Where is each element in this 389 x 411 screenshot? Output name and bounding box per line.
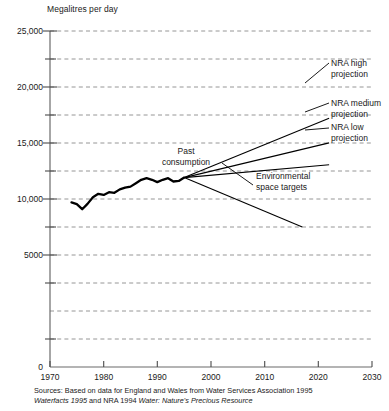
annotation-nra-high-line2: projection: [331, 69, 368, 80]
x-tick-2020: 2020: [309, 372, 328, 382]
source-note-line1: Sources: Based on data for England and W…: [34, 386, 384, 396]
annotation-nra-medium-line2: projection: [331, 109, 381, 120]
annotation-environmental-line1: Environmental: [256, 171, 310, 182]
source-title-water-natures-precious-resource: Water: Nature's Precious Resource: [139, 396, 253, 405]
x-tick-1980: 1980: [94, 372, 113, 382]
annotation-nra-medium-projection: NRA medium projection: [331, 98, 381, 119]
annotation-environmental-line2: space targets: [256, 182, 310, 193]
annotation-past-consumption: Past consumption: [150, 146, 222, 167]
annotation-nra-low-projection: NRA low projection: [331, 122, 368, 143]
leader-line-nra-low: [305, 128, 329, 130]
chart-figure: Megalitres per day 25,000 20,000 15,000 …: [0, 0, 389, 411]
x-tick-2010: 2010: [255, 372, 274, 382]
source-note: Sources: Based on data for England and W…: [34, 386, 384, 405]
source-note-line2: Waterfacts 1995 and NRA 1994 Water: Natu…: [34, 396, 384, 406]
source-title-waterfacts: Waterfacts 1995: [34, 396, 87, 405]
x-tick-1970: 1970: [41, 372, 60, 382]
leader-line-nra-high: [305, 63, 329, 83]
leader-line-nra-medium: [305, 103, 329, 112]
x-tick-2000: 2000: [202, 372, 221, 382]
annotation-nra-high-line1: NRA high: [331, 58, 368, 69]
annotation-past-consumption-line2: consumption: [150, 157, 222, 168]
source-note-connector: and NRA 1994: [87, 396, 139, 405]
gridlines-horizontal: [50, 31, 372, 339]
annotation-environmental-space-targets: Environmental space targets: [256, 171, 310, 192]
x-axis-ticks: [50, 361, 372, 367]
annotation-nra-low-line2: projection: [331, 133, 368, 144]
annotation-past-consumption-line1: Past: [150, 146, 222, 157]
x-tick-1990: 1990: [148, 372, 167, 382]
annotation-nra-low-line1: NRA low: [331, 122, 368, 133]
x-tick-2030: 2030: [363, 372, 382, 382]
annotation-nra-medium-line1: NRA medium: [331, 98, 381, 109]
series-past-consumption: [72, 178, 185, 210]
annotation-nra-high-projection: NRA high projection: [331, 58, 368, 79]
